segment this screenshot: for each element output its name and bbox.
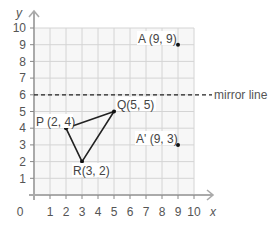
mirror-line-label: mirror line [214,88,268,102]
svg-text:4: 4 [19,121,26,135]
svg-text:6: 6 [127,205,134,219]
coordinate-grid-diagram: 1 2 3 4 5 6 7 8 9 10 1 2 3 4 5 6 7 8 9 1… [0,0,269,229]
svg-text:6: 6 [19,88,26,102]
x-axis-label: x [209,205,217,219]
point-q [112,110,116,114]
svg-text:9: 9 [19,38,26,52]
y-axis-label: y [15,6,23,20]
svg-text:4: 4 [95,205,102,219]
svg-text:5: 5 [19,105,26,119]
svg-text:8: 8 [19,55,26,69]
point-r-label: R(3, 2) [73,164,110,178]
origin-label: 0 [17,205,24,219]
svg-text:7: 7 [143,205,150,219]
svg-text:3: 3 [19,138,26,152]
svg-text:7: 7 [19,71,26,85]
svg-text:1: 1 [19,172,26,186]
point-p-label: P (2, 4) [36,115,75,129]
svg-text:2: 2 [63,205,70,219]
svg-text:10: 10 [187,205,201,219]
y-tick-labels: 1 2 3 4 5 6 7 8 9 10 [13,21,27,185]
svg-text:2: 2 [19,155,26,169]
point-a-prime-label: A' (9, 3) [136,132,178,146]
svg-text:8: 8 [159,205,166,219]
svg-text:1: 1 [47,205,54,219]
svg-text:9: 9 [175,205,182,219]
point-q-label: Q(5, 5) [117,98,154,112]
svg-text:10: 10 [13,21,27,35]
svg-text:3: 3 [79,205,86,219]
svg-text:5: 5 [111,205,118,219]
x-tick-labels: 1 2 3 4 5 6 7 8 9 10 [47,205,201,219]
point-a-label: A (9, 9) [138,32,177,46]
